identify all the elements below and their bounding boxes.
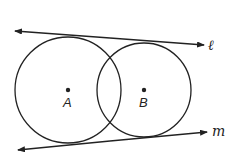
point-label-b: B — [139, 95, 148, 110]
line-label-m: m — [212, 123, 225, 139]
center-point-a — [66, 88, 70, 92]
tangent-circles-diagram: A B ℓ m — [0, 0, 235, 159]
point-label-a: A — [62, 95, 72, 110]
tangent-line-l-right — [110, 38, 204, 45]
line-label-l: ℓ — [208, 37, 214, 53]
center-point-b — [142, 88, 146, 92]
